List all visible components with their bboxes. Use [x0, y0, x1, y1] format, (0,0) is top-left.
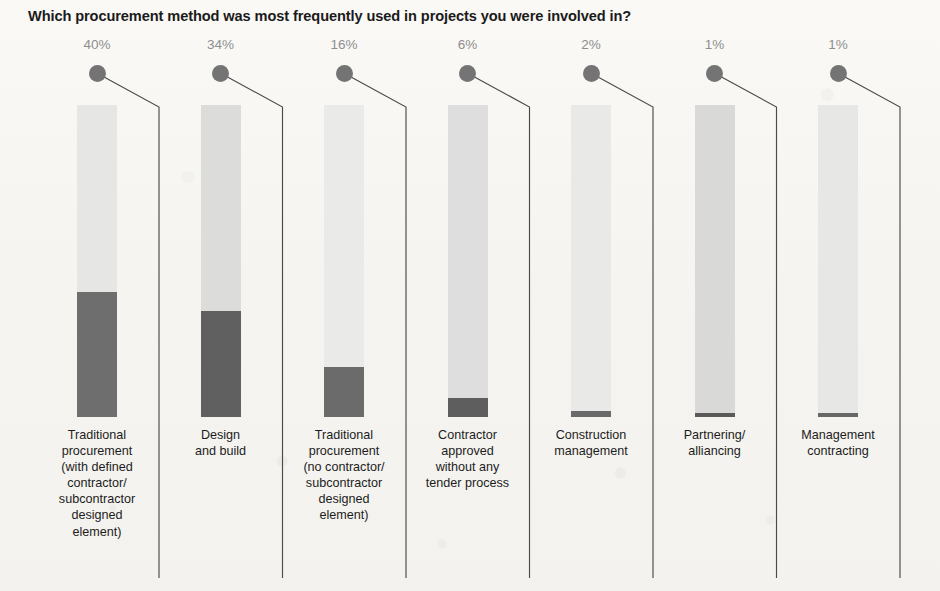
bar-value-label: 1%	[680, 37, 750, 52]
category-label-line: (with defined	[61, 460, 132, 474]
bar-category-label: Traditionalprocurement(no contractor/sub…	[285, 427, 403, 524]
category-label-line: Construction	[556, 428, 627, 442]
bar-marker-dot	[583, 65, 600, 82]
bar-connector-line	[722, 77, 777, 578]
category-label-line: tender process	[426, 476, 509, 490]
category-label-line: procurement	[62, 444, 133, 458]
bar-marker-dot	[89, 65, 106, 82]
bar-category-label: Traditionalprocurement(with definedcontr…	[38, 427, 156, 540]
category-label-line: Traditional	[315, 428, 373, 442]
category-label-line: designed	[71, 508, 122, 522]
category-label-line: procurement	[309, 444, 380, 458]
chart-page: Which procurement method was most freque…	[0, 0, 940, 591]
category-label-line: element)	[73, 525, 122, 539]
bar-connector-line	[475, 77, 530, 578]
category-label-line: and build	[195, 444, 246, 458]
category-label-line: designed	[318, 492, 369, 506]
category-label-line: Traditional	[68, 428, 126, 442]
bar-marker-dot	[336, 65, 353, 82]
bar-value-label: 6%	[433, 37, 503, 52]
bar-marker-dot	[212, 65, 229, 82]
bar-category-label: Partnering/alliancing	[656, 427, 774, 459]
bar-category-label: Contractorapprovedwithout anytender proc…	[409, 427, 527, 491]
bar-value-label: 2%	[556, 37, 626, 52]
category-label-line: subcontractor	[306, 476, 382, 490]
bar-category-label: Designand build	[162, 427, 280, 459]
bar-connector-line	[228, 77, 283, 578]
chart-title: Which procurement method was most freque…	[28, 8, 908, 24]
bar-value-label: 16%	[309, 37, 379, 52]
category-label-line: alliancing	[688, 444, 741, 458]
category-label-line: without any	[436, 460, 500, 474]
bar-value-label: 40%	[62, 37, 132, 52]
bar-category-label: Constructionmanagement	[532, 427, 650, 459]
bar-value-label: 34%	[186, 37, 256, 52]
category-label-line: subcontractor	[59, 492, 135, 506]
category-label-line: element)	[320, 508, 369, 522]
category-label-line: (no contractor/	[303, 460, 384, 474]
category-label-line: Design	[201, 428, 240, 442]
category-label-line: Partnering/	[684, 428, 746, 442]
bar-marker-dot	[830, 65, 847, 82]
bar-category-label: Managementcontracting	[779, 427, 897, 459]
category-label-line: management	[554, 444, 628, 458]
bar-connector-line	[845, 77, 900, 578]
category-label-line: contractor/	[67, 476, 127, 490]
category-label-line: contracting	[807, 444, 869, 458]
bar-marker-dot	[459, 65, 476, 82]
category-label-line: approved	[441, 444, 494, 458]
bar-marker-dot	[706, 65, 723, 82]
category-label-line: Contractor	[438, 428, 497, 442]
bar-connector-line	[598, 77, 653, 578]
category-label-line: Management	[801, 428, 875, 442]
bar-value-label: 1%	[803, 37, 873, 52]
